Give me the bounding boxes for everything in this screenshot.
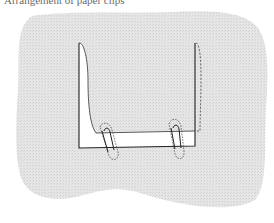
paper-clip-diagram [0,0,274,223]
background-blob [16,11,267,207]
